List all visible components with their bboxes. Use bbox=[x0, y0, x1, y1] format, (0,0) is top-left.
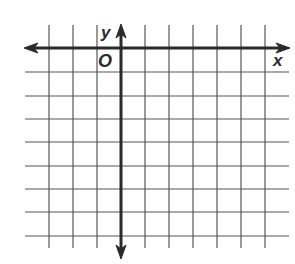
y-axis-label: y bbox=[101, 24, 110, 41]
x-axis bbox=[24, 43, 290, 53]
origin-label: O bbox=[98, 52, 112, 70]
coordinate-grid bbox=[0, 0, 295, 264]
grid-lines bbox=[25, 25, 289, 248]
x-axis-label: x bbox=[273, 52, 282, 69]
